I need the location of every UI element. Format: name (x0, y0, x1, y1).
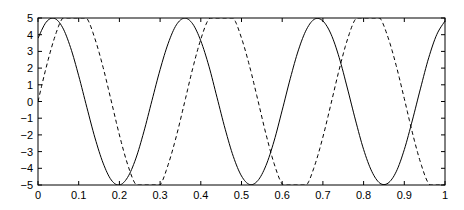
x-tick-label: 0.5 (234, 189, 249, 201)
x-tick-label: 0.3 (152, 189, 167, 201)
y-tick-label: −4 (20, 162, 33, 174)
x-tick-label: 0.4 (193, 189, 208, 201)
plot-frame (38, 18, 445, 185)
x-tick-label: 0.6 (275, 189, 290, 201)
x-tick-label: 1 (442, 189, 448, 201)
y-tick-label: 5 (27, 12, 33, 24)
series-line-dashed (38, 18, 445, 185)
x-tick-label: 0.9 (397, 189, 412, 201)
y-tick-label: −1 (20, 112, 33, 124)
y-tick-label: −2 (20, 129, 33, 141)
x-tick-label: 0.2 (112, 189, 127, 201)
y-tick-label: −5 (20, 179, 33, 191)
y-tick-label: 0 (27, 96, 33, 108)
y-tick-label: 4 (27, 29, 33, 41)
x-tick-label: 0.1 (71, 189, 86, 201)
x-tick-label: 0.8 (356, 189, 371, 201)
x-tick-label: 0.7 (315, 189, 330, 201)
y-tick-label: 1 (27, 79, 33, 91)
y-tick-label: 3 (27, 45, 33, 57)
series-line-solid (38, 18, 445, 185)
y-tick-label: 2 (27, 62, 33, 74)
y-tick-label: −3 (20, 146, 33, 158)
line-chart: 00.10.20.30.40.50.60.70.80.91 543210−1−2… (0, 0, 464, 210)
x-tick-label: 0 (35, 189, 41, 201)
